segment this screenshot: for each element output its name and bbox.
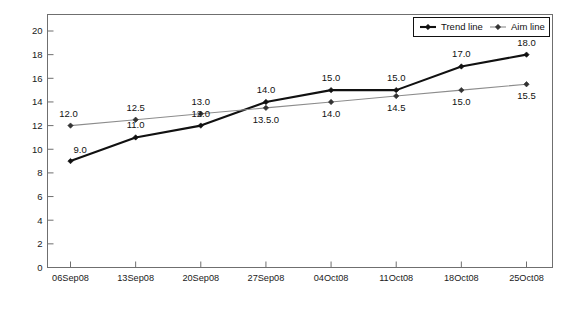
legend-label: Trend line — [441, 21, 483, 32]
svg-text:18Oct08: 18Oct08 — [444, 273, 479, 283]
svg-text:27Sep08: 27Sep08 — [248, 273, 285, 283]
svg-text:12: 12 — [32, 120, 43, 131]
trend-point-label: 15.0 — [322, 72, 341, 83]
svg-text:20Sep08: 20Sep08 — [182, 273, 219, 283]
trend-point-label: 17.0 — [452, 48, 471, 59]
svg-text:04Oct08: 04Oct08 — [314, 273, 349, 283]
svg-text:0: 0 — [37, 262, 42, 273]
trend-point-label: 12.0 — [192, 108, 211, 119]
aim-point-label: 13.0 — [192, 96, 211, 107]
svg-text:10: 10 — [32, 144, 43, 155]
svg-text:4: 4 — [37, 215, 42, 226]
svg-text:18: 18 — [32, 49, 43, 60]
svg-text:6: 6 — [37, 191, 42, 202]
svg-text:11Oct08: 11Oct08 — [379, 273, 413, 283]
svg-text:20: 20 — [32, 25, 43, 36]
aim-point-label: 14.5 — [387, 102, 406, 113]
aim-point-label: 13.5.0 — [253, 114, 279, 125]
trend-point-label: 9.0 — [74, 144, 87, 155]
svg-text:2: 2 — [37, 238, 42, 249]
chart-svg: 02468101214161820 06Sep0813Sep0820Sep082… — [0, 0, 573, 315]
svg-text:13Sep08: 13Sep08 — [117, 273, 154, 283]
svg-text:06Sep08: 06Sep08 — [52, 273, 89, 283]
aim-point-label: 12.0 — [59, 108, 78, 119]
aim-point-label: 15.0 — [452, 96, 471, 107]
aim-point-label: 14.0 — [322, 108, 341, 119]
aim-point-label: 12.5 — [126, 102, 145, 113]
trend-point-label: 18.0 — [517, 37, 536, 48]
legend-label: Aim line — [511, 21, 545, 32]
chart-legend[interactable]: Trend lineAim line — [414, 18, 550, 37]
trend-point-label: 11.0 — [127, 119, 145, 130]
svg-text:25Oct08: 25Oct08 — [509, 273, 544, 283]
svg-text:16: 16 — [32, 73, 43, 84]
svg-text:14: 14 — [32, 96, 43, 107]
chart-container: WCPM Dates 02468101214161820 06Sep0813Se… — [0, 0, 573, 315]
trend-point-label: 14.0 — [257, 84, 276, 95]
svg-text:8: 8 — [37, 167, 42, 178]
trend-point-label: 15.0 — [387, 72, 406, 83]
aim-point-label: 15.5 — [517, 90, 536, 101]
